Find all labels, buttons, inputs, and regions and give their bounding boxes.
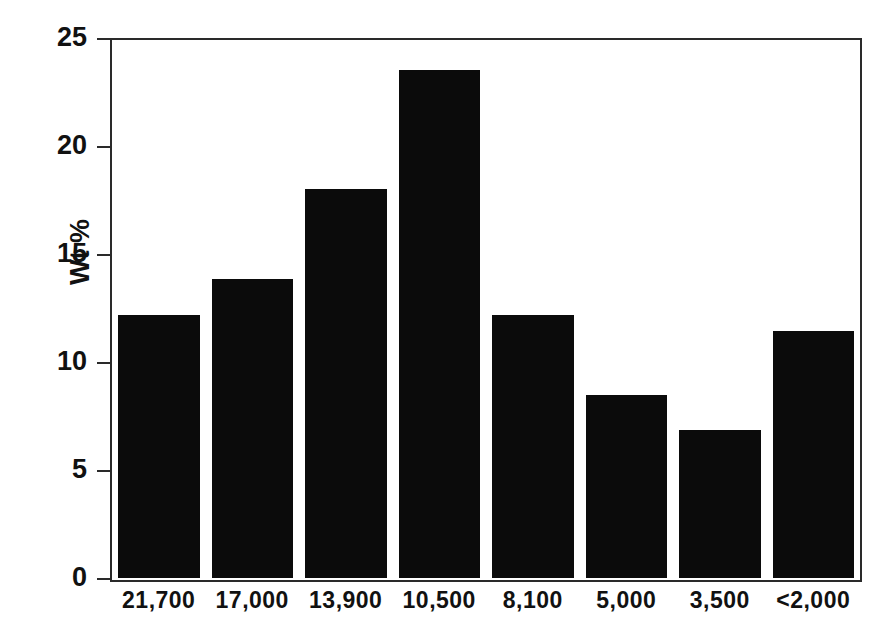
bar-17000: [212, 279, 294, 578]
bar-5000: [586, 395, 668, 578]
y-tick-label-20: 20: [27, 132, 87, 159]
y-tick-mark: [97, 254, 110, 256]
bar-lt2000: [773, 331, 855, 578]
y-tick-mark: [97, 362, 110, 364]
bar-3500: [679, 430, 761, 578]
bar-13900: [305, 189, 387, 579]
bar-21700: [118, 315, 200, 578]
y-tick-label-10: 10: [27, 348, 87, 375]
y-tick-label-15: 15: [27, 240, 87, 267]
x-tick-label-7: <2,000: [738, 586, 888, 614]
bar-10500: [399, 70, 481, 578]
bar-chart-figure: Wt % 25 20 15 10 5 0: [0, 0, 891, 627]
y-tick-mark: [97, 578, 110, 580]
y-tick-mark: [97, 146, 110, 148]
bar-series: [112, 40, 860, 578]
y-tick-label-0: 0: [27, 564, 87, 591]
y-tick-mark: [97, 38, 110, 40]
y-tick-mark: [97, 470, 110, 472]
y-tick-label-25: 25: [27, 24, 87, 51]
bar-8100: [492, 315, 574, 578]
y-tick-label-5: 5: [27, 456, 87, 483]
